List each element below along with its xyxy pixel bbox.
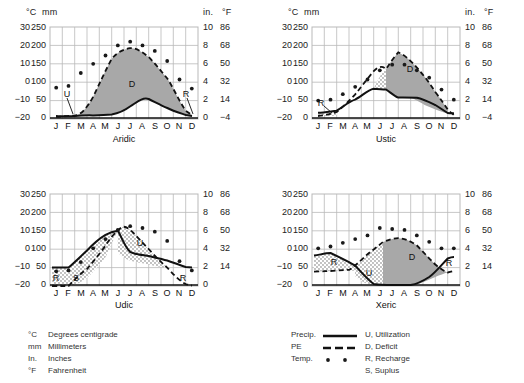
tick-mm: 50 [26,261,46,271]
x-tick-month: D [448,288,460,298]
x-tick-month: N [173,121,185,131]
tick-mm: 150 [26,58,46,68]
series-legend: Precip. PE Temp. U, Utilization D, Defic… [262,330,524,383]
x-tick-month: A [349,121,361,131]
axis-unit-right-f: °F [222,7,232,17]
x-tick-month: J [124,288,136,298]
tick-f: 86 [482,22,498,32]
axis-unit-left-c: °C [26,7,37,17]
tick-f: 86 [482,189,498,199]
tick-mm: 200 [288,40,308,50]
x-tick-month: A [136,121,148,131]
tick-mm: 0 [288,112,308,122]
series-key-precip: Precip. [291,330,321,339]
tick-in: 4 [465,76,479,86]
tick-in: 0 [203,112,217,122]
x-tick-month: F [62,288,74,298]
region-label-D: D [409,252,416,262]
x-tick-month: A [136,288,148,298]
x-tick-month: A [87,121,99,131]
chart-panel-xeric: 30 20 10 0 −10 −20 250 200 150 100 50 0 … [262,176,524,326]
x-tick-month: J [312,121,324,131]
region-label-U: U [64,89,71,99]
x-tick-month: M [361,288,373,298]
region-label-R2: R [180,273,187,283]
tick-mm: 100 [26,76,46,86]
x-tick-month: S [149,121,161,131]
tick-mm: 100 [288,243,308,253]
region-legend-u: U, Utilization [365,330,410,339]
tick-in: 8 [203,207,217,217]
tick-in: 0 [203,279,217,289]
region-label-R: R [53,273,60,283]
tick-f: −4 [220,112,236,122]
tick-f: 14 [482,261,498,271]
region-legend-d: D, Deficit [365,342,397,351]
tick-in: 10 [465,22,479,32]
tick-f: 14 [220,261,236,271]
tick-f: 14 [220,94,236,104]
region-label-D: D [129,79,136,89]
axis-unit-left-mm: mm [304,7,319,17]
tick-f: 50 [482,225,498,235]
axis-unit-left-mm: mm [42,7,57,17]
tick-mm: 200 [26,207,46,217]
tick-mm: 200 [288,207,308,217]
x-tick-month: S [411,288,423,298]
tick-mm: 50 [288,94,308,104]
chart-panel-udic: 30 20 10 0 −10 −20 250 200 150 100 50 0 … [0,176,262,326]
x-tick-month: M [75,121,87,131]
panel-title-aridic: Aridic [50,134,198,144]
x-tick-month: N [435,288,447,298]
unit-value: Inches [48,354,72,363]
x-tick-month: M [337,288,349,298]
x-tick-month: O [161,288,173,298]
tick-f: 14 [482,94,498,104]
chart-panel-aridic: °C mm in. °F 30 20 10 0 −10 −20 250 200 … [0,0,262,170]
tick-f: 32 [220,76,236,86]
unit-value: Fahrenheit [48,366,86,375]
tick-f: 68 [220,207,236,217]
tick-mm: 0 [26,279,46,289]
region-label-R2: R [446,258,453,268]
panel-title-ustic: Ustic [312,134,460,144]
tick-mm: 0 [26,112,46,122]
x-tick-month: M [337,121,349,131]
x-tick-month: N [173,288,185,298]
tick-in: 6 [465,58,479,68]
plot-area-ustic: D R [312,27,460,119]
x-tick-month: M [99,121,111,131]
x-tick-month: J [124,121,136,131]
tick-in: 2 [203,94,217,104]
axis-unit-right-f: °F [484,7,494,17]
x-tick-month: D [448,121,460,131]
tick-mm: 100 [26,243,46,253]
dashed-line-icon [323,346,357,350]
tick-in: 0 [465,112,479,122]
region-label-S: S [73,273,79,283]
panel-title-xeric: Xeric [312,300,460,310]
tick-in: 6 [465,225,479,235]
tick-in: 8 [465,207,479,217]
x-tick-month: F [324,288,336,298]
tick-mm: 50 [288,261,308,271]
tick-f: 68 [220,40,236,50]
series-key-temp: Temp. [291,354,321,363]
tick-in: 6 [203,225,217,235]
tick-f: 32 [220,243,236,253]
x-tick-month: S [411,121,423,131]
x-tick-month: O [423,288,435,298]
tick-f: 50 [220,58,236,68]
tick-in: 10 [203,22,217,32]
region-label-U: U [137,238,144,248]
tick-in: 4 [465,243,479,253]
plot-area-xeric: R U D R [312,194,460,286]
region-legend-s: S, Suplus [365,366,399,375]
tick-mm: 0 [288,279,308,289]
region-label-D: D [407,64,414,74]
tick-mm: 150 [26,225,46,235]
x-tick-month: A [398,288,410,298]
tick-mm: 200 [26,40,46,50]
tick-in: 10 [465,189,479,199]
x-tick-month: A [349,288,361,298]
